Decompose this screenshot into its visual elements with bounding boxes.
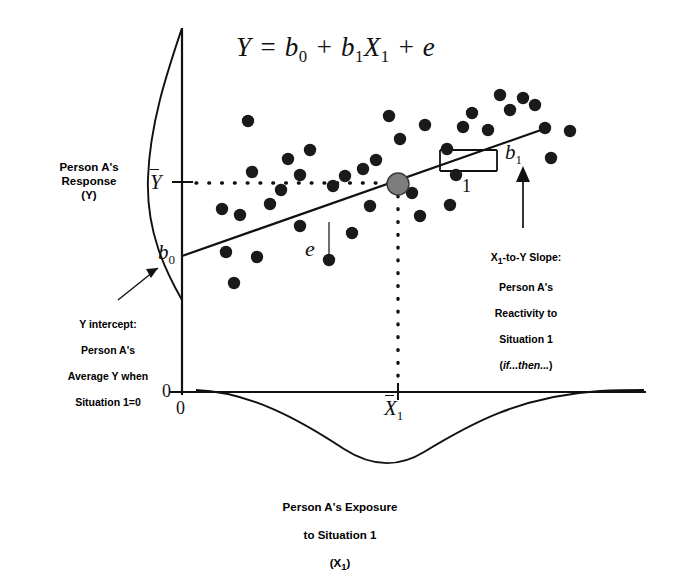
slope-annotation-line2: Person A's xyxy=(456,281,596,294)
slope-annotation-line4: Situation 1 xyxy=(456,333,596,346)
scatter-point xyxy=(246,166,258,178)
intercept-leader-arrow xyxy=(118,268,158,300)
slope-run-label: 1 xyxy=(462,176,471,197)
x-axis-label-paren: (X xyxy=(330,557,342,569)
scatter-point xyxy=(504,104,516,116)
scatter-point xyxy=(466,107,478,119)
scatter-point xyxy=(414,210,426,222)
intercept-glyph-sub: 0 xyxy=(169,252,176,267)
scatter-point xyxy=(220,246,232,258)
slope-arrowhead xyxy=(516,166,530,182)
x-axis-label: Person A's Exposure to Situation 1 (X1) xyxy=(195,486,485,574)
x-axis-label-line2: to Situation 1 xyxy=(195,528,485,542)
equation-slope-sub: 1 xyxy=(355,47,364,66)
scatter-point xyxy=(304,144,316,156)
equation-predictor: X xyxy=(364,32,381,62)
intercept-annotation-line4: Situation 1=0 xyxy=(28,396,188,409)
scatter-point xyxy=(339,170,351,182)
scatter-point xyxy=(441,143,453,155)
slope-annotation-ifthen: if...then... xyxy=(503,359,549,371)
equation-intercept-sub: 0 xyxy=(299,47,308,66)
slope-leader-arrow xyxy=(516,166,530,228)
equation-plus-1: + xyxy=(315,32,334,62)
y-mean-symbol: Y xyxy=(150,170,162,195)
x-axis-label-line3: (X1) xyxy=(195,556,485,574)
scatter-point xyxy=(216,203,228,215)
scatter-point xyxy=(517,92,529,104)
intercept-annotation-line3: Average Y when xyxy=(28,370,188,383)
scatter-point xyxy=(364,200,376,212)
slope-annotation-line5: (if...then...) xyxy=(456,359,596,372)
scatter-point xyxy=(264,198,276,210)
scatter-point xyxy=(457,121,469,133)
equation-plus-2: + xyxy=(397,32,416,62)
scatter-point xyxy=(564,125,576,137)
scatter-point xyxy=(327,180,339,192)
slope-annotation-line1: X1-to-Y Slope: xyxy=(456,251,596,268)
intercept-annotation: Y intercept: Person A's Average Y when S… xyxy=(28,305,188,422)
intercept-glyph: b xyxy=(158,240,169,264)
slope-annotation-line3: Reactivity to xyxy=(456,307,596,320)
equation-intercept: b xyxy=(285,32,299,62)
equation-predictor-sub: 1 xyxy=(381,47,390,66)
scatter-point xyxy=(242,115,254,127)
intercept-symbol: b0 xyxy=(158,240,175,268)
scatter-point xyxy=(482,124,494,136)
x-mean-glyph: X xyxy=(384,396,397,421)
equation-slope: b xyxy=(341,32,355,62)
scatter-point xyxy=(294,220,306,232)
y-mean-glyph: Y xyxy=(150,170,162,195)
scatter-point xyxy=(357,163,369,175)
centroid-marker xyxy=(387,173,409,195)
scatter-point xyxy=(444,199,456,211)
scatter-point xyxy=(529,99,541,111)
scatter-point xyxy=(370,154,382,166)
x-distribution-curve xyxy=(196,390,644,463)
scatter-point xyxy=(275,184,287,196)
scatter-point xyxy=(419,119,431,131)
scatter-point xyxy=(545,152,557,164)
scatter-point xyxy=(282,153,294,165)
scatter-point xyxy=(294,169,306,181)
slope-annotation-rest: -to-Y Slope: xyxy=(503,251,562,263)
scatter-point xyxy=(539,122,551,134)
equation-error: e xyxy=(423,32,435,62)
equation-equals: = xyxy=(259,32,278,62)
scatter-point xyxy=(494,89,506,101)
x-mean-symbol: X1 xyxy=(384,396,403,424)
scatter-point xyxy=(323,254,335,266)
scatter-point xyxy=(251,251,263,263)
slope-glyph-sub: 1 xyxy=(516,152,523,167)
intercept-annotation-line2: Person A's xyxy=(28,344,188,357)
scatter-point xyxy=(228,277,240,289)
slope-annotation-x: X xyxy=(491,251,498,263)
residual-symbol: e xyxy=(305,236,315,262)
scatter-point xyxy=(383,110,395,122)
slope-annotation: X1-to-Y Slope: Person A's Reactivity to … xyxy=(456,238,596,385)
scatter-point xyxy=(450,169,462,181)
x-axis-label-sub: 1 xyxy=(341,561,346,572)
scatter-point xyxy=(394,133,406,145)
slope-symbol: b1 xyxy=(505,140,522,168)
scatter-point xyxy=(234,209,246,221)
equation-lhs: Y xyxy=(236,32,252,62)
x-axis-label-line1: Person A's Exposure xyxy=(195,500,485,514)
y-axis-label: Person A's Response (Y) xyxy=(24,160,154,202)
scatter-point xyxy=(346,227,358,239)
model-equation: Y = b0 + b1X1 + e xyxy=(236,32,435,67)
slope-glyph: b xyxy=(505,140,516,164)
x-mean-glyph-sub: 1 xyxy=(397,408,404,423)
intercept-annotation-line1: Y intercept: xyxy=(28,318,188,331)
